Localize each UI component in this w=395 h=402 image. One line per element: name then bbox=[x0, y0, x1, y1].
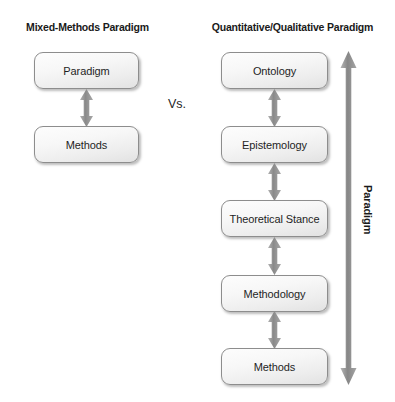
diagram-canvas: Mixed-Methods Paradigm Quantitative/Qual… bbox=[0, 0, 395, 402]
double-arrow-icon bbox=[267, 163, 282, 201]
node-methods-right: Methods bbox=[221, 348, 328, 385]
node-methodology: Methodology bbox=[221, 275, 328, 312]
node-methods-left: Methods bbox=[34, 126, 139, 163]
double-arrow-icon bbox=[79, 89, 94, 127]
vs-label: Vs. bbox=[152, 97, 202, 111]
node-label: Methods bbox=[66, 139, 108, 151]
double-arrow-icon bbox=[267, 237, 282, 275]
right-column-heading: Quantitative/Qualitative Paradigm bbox=[195, 21, 390, 33]
paradigm-span-label: Paradigm bbox=[362, 185, 374, 255]
paradigm-span-arrow-icon bbox=[338, 50, 359, 386]
node-label: Theoretical Stance bbox=[230, 213, 320, 225]
node-label: Ontology bbox=[253, 65, 296, 77]
node-epistemology: Epistemology bbox=[221, 126, 328, 163]
double-arrow-icon bbox=[267, 311, 282, 349]
node-theoretical-stance: Theoretical Stance bbox=[221, 200, 328, 237]
node-label: Epistemology bbox=[242, 139, 307, 151]
node-label: Methods bbox=[254, 361, 296, 373]
double-arrow-icon bbox=[267, 89, 282, 127]
node-label: Paradigm bbox=[63, 65, 109, 77]
node-label: Methodology bbox=[244, 288, 306, 300]
node-paradigm: Paradigm bbox=[34, 52, 139, 89]
left-column-heading: Mixed-Methods Paradigm bbox=[0, 21, 175, 33]
node-ontology: Ontology bbox=[221, 52, 328, 89]
